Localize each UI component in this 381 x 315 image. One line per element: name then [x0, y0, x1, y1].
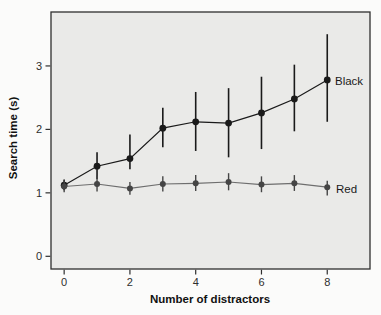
plot-area — [51, 12, 370, 269]
y-tick-label: 2 — [36, 123, 42, 135]
data-point — [94, 181, 100, 187]
series-label-black: Black — [335, 75, 363, 87]
data-point — [324, 76, 331, 83]
x-axis-title: Number of distractors — [150, 293, 270, 305]
x-tick-label: 4 — [193, 276, 199, 288]
y-tick-label: 3 — [36, 60, 42, 72]
chart-canvas: 024680123 Number of distractors Search t… — [0, 0, 381, 315]
data-point — [225, 120, 232, 127]
data-point — [193, 180, 199, 186]
x-tick-label: 6 — [258, 276, 264, 288]
y-axis-title: Search time (s) — [7, 97, 19, 180]
search-time-chart: 024680123 Number of distractors Search t… — [0, 0, 381, 315]
y-tick-label: 0 — [36, 250, 42, 262]
data-point — [94, 163, 101, 170]
series-label-red: Red — [336, 183, 357, 195]
data-point — [291, 96, 298, 103]
x-tick-label: 8 — [324, 276, 330, 288]
data-point — [160, 181, 166, 187]
data-point — [324, 184, 330, 190]
data-point — [127, 155, 134, 162]
y-tick-label: 1 — [36, 187, 42, 199]
data-point — [159, 125, 166, 132]
data-point — [61, 184, 67, 190]
data-point — [226, 179, 232, 185]
data-point — [258, 109, 265, 116]
x-tick-label: 0 — [61, 276, 67, 288]
data-point — [192, 118, 199, 125]
x-tick-label: 2 — [127, 276, 133, 288]
data-point — [127, 185, 133, 191]
data-point — [258, 182, 264, 188]
data-point — [291, 180, 297, 186]
